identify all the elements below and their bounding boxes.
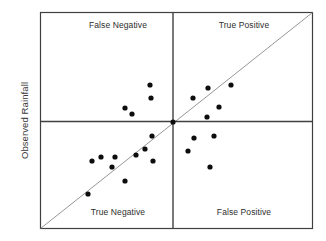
data-point <box>190 95 195 100</box>
data-point <box>185 148 190 153</box>
data-point <box>211 133 216 138</box>
data-point <box>98 154 103 159</box>
data-point <box>112 154 117 159</box>
data-point <box>170 119 175 124</box>
quadrant-label-true-positive: True Positive <box>186 20 302 30</box>
data-point <box>228 82 233 87</box>
data-point <box>122 178 127 183</box>
data-point <box>89 158 94 163</box>
data-point <box>205 85 210 90</box>
data-point <box>150 158 155 163</box>
data-point <box>122 105 127 110</box>
diagonal-reference-line <box>41 13 313 229</box>
data-point <box>149 133 154 138</box>
plot-canvas <box>0 0 326 241</box>
data-point <box>191 135 196 140</box>
data-point <box>148 95 153 100</box>
data-point <box>216 104 221 109</box>
quadrant-label-false-negative: False Negative <box>68 20 168 30</box>
data-points-group <box>85 82 233 196</box>
quadrant-label-false-positive: False Positive <box>186 207 302 217</box>
y-axis-label: Observed Rainfall <box>18 0 32 241</box>
scatter-plot-figure: Observed Rainfall False Negative True Po… <box>0 0 326 241</box>
data-point <box>129 111 134 116</box>
data-point <box>133 152 138 157</box>
quadrant-label-true-negative: True Negative <box>68 207 168 217</box>
data-point <box>85 191 90 196</box>
data-point <box>147 82 152 87</box>
data-point <box>204 114 209 119</box>
data-point <box>142 146 147 151</box>
data-point <box>109 164 114 169</box>
data-point <box>207 164 212 169</box>
